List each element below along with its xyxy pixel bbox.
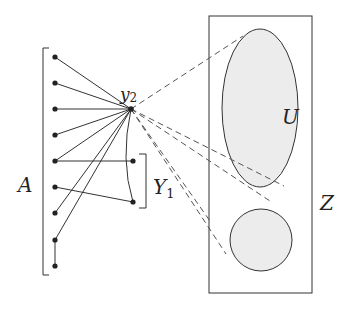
region-disk-circle <box>230 209 292 271</box>
vertex-y2 <box>128 106 134 112</box>
set-a-bracket <box>43 48 49 275</box>
vertex-a2 <box>52 80 57 85</box>
vertex-y1-bottom <box>130 199 135 204</box>
label-a: A <box>16 173 32 197</box>
label-y1: Y1 <box>153 175 174 201</box>
vertex-a5 <box>52 158 57 163</box>
label-y2: y2 <box>119 84 137 105</box>
vertex-a1 <box>52 54 57 59</box>
label-z: Z <box>319 191 335 215</box>
vertex-a6 <box>52 184 57 189</box>
vertex-a7 <box>52 210 57 215</box>
vertex-a9 <box>52 263 57 268</box>
diagram-canvas: A y2 Y1 U Z <box>0 0 352 310</box>
set-y1-bracket <box>139 154 146 208</box>
vertex-a8 <box>52 237 57 242</box>
label-u: U <box>282 105 300 129</box>
vertex-a3 <box>52 106 57 111</box>
vertex-y1-top <box>130 158 135 163</box>
vertex-a4 <box>52 132 57 137</box>
